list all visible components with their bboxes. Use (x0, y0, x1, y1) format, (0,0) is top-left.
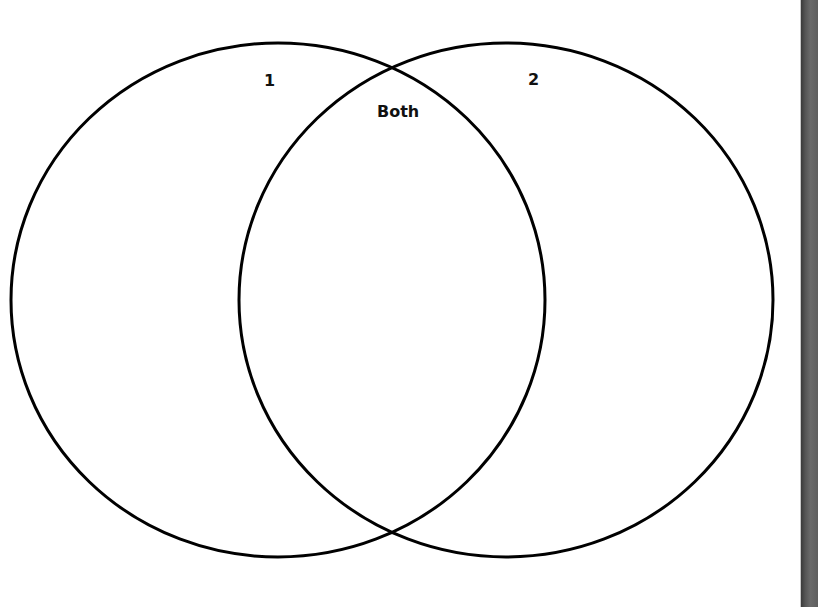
right-edge-bar (801, 0, 818, 607)
set-2-label: 2 (528, 72, 539, 88)
set-2-circle (239, 43, 773, 557)
set-1-label: 1 (264, 73, 275, 89)
intersection-label: Both (377, 104, 419, 120)
venn-circles (0, 0, 800, 607)
set-1-circle (11, 43, 545, 557)
venn-diagram: 1 2 Both (0, 0, 800, 607)
